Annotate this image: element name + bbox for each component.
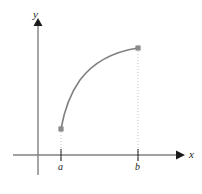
tick-label-a: a <box>58 162 63 172</box>
curve-endpoint-left <box>59 127 63 131</box>
x-axis-label: x <box>189 149 194 160</box>
x-axis-arrow-icon <box>176 151 185 160</box>
curve-endpoint-right <box>136 46 140 50</box>
function-curve <box>61 48 138 129</box>
function-graph-figure: y x a b <box>0 0 202 194</box>
tick-label-b: b <box>135 162 140 172</box>
graph-canvas <box>0 0 202 194</box>
y-axis-label: y <box>33 9 38 20</box>
